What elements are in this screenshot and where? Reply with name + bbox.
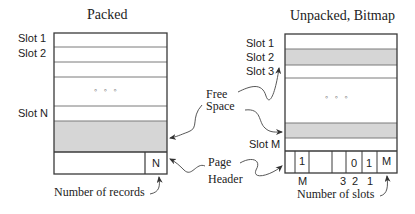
bitmap-cell-slot-2: 0 <box>351 157 357 169</box>
page-header-label-line1: Page <box>208 155 231 169</box>
bitmap-index-1: 1 <box>367 175 373 187</box>
bitmap-index-2: 2 <box>352 175 358 187</box>
free-space-label-line2: Space <box>206 99 235 113</box>
unpacked-title: Unpacked, Bitmap <box>290 8 395 24</box>
number-of-slots-label: Number of slots <box>297 187 374 201</box>
unpacked-slot-1-label: Slot 1 <box>246 37 274 50</box>
packed-ellipsis: ◦ ◦ ◦ <box>94 85 119 95</box>
bitmap-index-m: M <box>298 175 307 187</box>
unpacked-slot-2-free <box>285 49 397 65</box>
packed-page <box>54 33 167 174</box>
arrow-number-of-records <box>150 177 159 194</box>
packed-slot-2-label: Slot 2 <box>18 47 46 60</box>
arrow-free-space-to-unpacked-gray <box>245 110 282 132</box>
unpacked-free-slot <box>285 123 397 138</box>
slotted-page-diagram: Packed Slot 1 Slot 2 Slot N ◦ ◦ ◦ N Numb… <box>0 0 415 214</box>
packed-title: Packed <box>87 7 127 23</box>
packed-record-count-cell: N <box>152 157 160 169</box>
slot-count-cell: M <box>382 155 391 167</box>
packed-slot-1-label: Slot 1 <box>18 32 46 45</box>
unpacked-slot-2-label: Slot 2 <box>246 51 274 64</box>
bitmap-cell-slot-1: 1 <box>366 157 372 169</box>
arrow-page-header-to-packed <box>170 159 205 172</box>
unpacked-slot-3-label: Slot 3 <box>246 65 274 78</box>
unpacked-page <box>285 34 397 173</box>
number-of-records-label: Number of records <box>54 185 145 199</box>
packed-free-space <box>54 121 167 152</box>
arrow-page-header-to-unpacked <box>240 159 282 175</box>
arrow-free-space-to-packed <box>170 105 202 138</box>
packed-slot-n-label: Slot N <box>18 107 48 120</box>
unpacked-slot-m-label: Slot M <box>249 138 280 151</box>
page-header-label-line2: Header <box>208 172 243 186</box>
bitmap-cell-slot-m: 1 <box>299 155 305 167</box>
arrow-number-of-slots <box>380 176 387 196</box>
unpacked-ellipsis: ◦ ◦ ◦ <box>325 92 350 102</box>
bitmap-index-3: 3 <box>340 175 346 187</box>
